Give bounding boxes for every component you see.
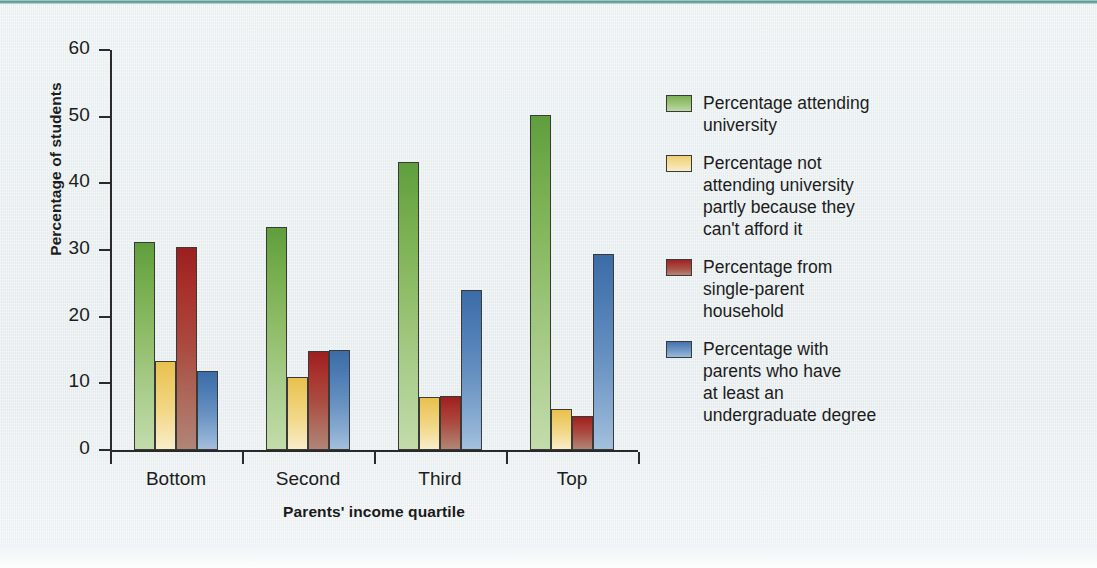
y-tick-mark (99, 116, 110, 118)
y-tick-mark (99, 249, 110, 251)
bar (266, 227, 287, 450)
bar (134, 242, 155, 450)
legend-item-cannot-afford[interactable]: Percentage not attending university part… (666, 152, 1066, 240)
x-group-label-bottom: Bottom (106, 468, 246, 490)
y-tick-label: 0 (46, 437, 90, 459)
bar (398, 162, 419, 450)
x-group-label-third: Third (370, 468, 510, 490)
legend-swatch-icon (666, 155, 692, 172)
bar (308, 351, 329, 450)
x-group-label-top: Top (502, 468, 642, 490)
legend-label: Percentage with parents who have at leas… (703, 338, 876, 426)
bar (155, 361, 176, 450)
legend-swatch-icon (666, 95, 692, 112)
y-tick-mark (99, 449, 110, 451)
legend-swatch-icon (666, 341, 692, 358)
y-tick-label: 10 (46, 370, 90, 392)
chart-figure: Percentage of students 0102030405060 Bot… (0, 0, 1097, 568)
x-group-label-second: Second (238, 468, 378, 490)
x-tick-mark (506, 452, 508, 464)
legend-item-attending-university[interactable]: Percentage attending university (666, 92, 1066, 136)
y-tick-label: 20 (46, 304, 90, 326)
y-tick-mark (99, 316, 110, 318)
y-tick-label: 40 (46, 170, 90, 192)
legend-label: Percentage from single-parent household (703, 256, 832, 322)
y-axis-line (110, 50, 112, 450)
legend-label: Percentage not attending university part… (703, 152, 855, 240)
bar (440, 396, 461, 450)
legend-item-single-parent-household[interactable]: Percentage from single-parent household (666, 256, 1066, 322)
legend-swatch-icon (666, 259, 692, 276)
x-axis-title: Parents' income quartile (110, 503, 638, 521)
bar (419, 397, 440, 450)
legend-item-parents-undergraduate-degree[interactable]: Percentage with parents who have at leas… (666, 338, 1066, 426)
x-tick-mark (110, 452, 112, 464)
chart-legend: Percentage attending universityPercentag… (666, 92, 1066, 442)
bar (197, 371, 218, 450)
y-tick-mark (99, 382, 110, 384)
x-tick-mark (638, 452, 640, 464)
bar (572, 416, 593, 450)
y-tick-mark (99, 182, 110, 184)
y-tick-mark (99, 49, 110, 51)
x-tick-mark (374, 452, 376, 464)
bar (551, 409, 572, 450)
bar (461, 290, 482, 450)
x-tick-mark (242, 452, 244, 464)
bar (176, 247, 197, 450)
bar (329, 350, 350, 450)
y-tick-label: 30 (46, 237, 90, 259)
legend-label: Percentage attending university (703, 92, 869, 136)
bar (287, 377, 308, 450)
y-tick-label: 50 (46, 104, 90, 126)
bar (530, 115, 551, 450)
y-tick-label: 60 (46, 37, 90, 59)
bar (593, 254, 614, 450)
